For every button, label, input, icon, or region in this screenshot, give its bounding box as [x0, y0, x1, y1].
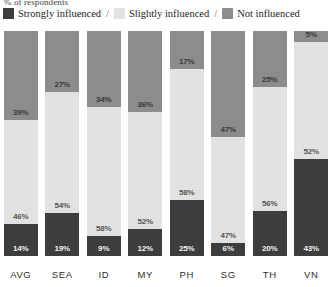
bar-segment-slightly-sea[interactable]: 54%: [45, 92, 79, 214]
bar-value-label: 12%: [137, 244, 153, 256]
bar-column-sea[interactable]: 27%54%19%: [45, 31, 79, 256]
bar-segment-not-sg[interactable]: 47%: [211, 31, 245, 137]
x-axis-tick-avg: AVG: [4, 258, 38, 280]
bar-column-id[interactable]: 34%58%9%: [87, 31, 121, 256]
bar-segment-strongly-sea[interactable]: 19%: [45, 213, 79, 256]
legend-label-strongly-influenced: Strongly influenced: [18, 8, 101, 19]
bar-value-label: 39%: [13, 108, 29, 120]
legend-label-slightly-influenced: Slightly influenced: [129, 8, 209, 19]
bar-segment-strongly-my[interactable]: 12%: [128, 229, 162, 256]
bar-value-label: 5%: [306, 31, 317, 42]
bar-segment-not-sea[interactable]: 27%: [45, 31, 79, 92]
bar-value-label: 17%: [179, 57, 195, 69]
bar-segment-strongly-th[interactable]: 20%: [253, 211, 287, 256]
bar-segment-not-ph[interactable]: 17%: [170, 31, 204, 69]
x-axis-tick-ph: PH: [170, 258, 204, 280]
bar-segment-not-my[interactable]: 36%: [128, 31, 162, 112]
bar-value-label: 43%: [303, 244, 319, 256]
bar-value-label: 34%: [96, 95, 112, 107]
legend-item-slightly-influenced[interactable]: Slightly influenced: [114, 8, 209, 19]
bar-column-ph[interactable]: 17%58%25%: [170, 31, 204, 256]
x-axis-tick-sg: SG: [211, 258, 245, 280]
bar-value-label: 47%: [220, 125, 236, 137]
bar-segment-not-th[interactable]: 25%: [253, 31, 287, 87]
bar-value-label: 9%: [98, 244, 109, 256]
bar-value-label: 6%: [223, 244, 234, 256]
bar-column-th[interactable]: 25%56%20%: [253, 31, 287, 256]
chart-legend: Strongly influenced / Slightly influence…: [3, 8, 300, 19]
legend-swatch-slightly-influenced: [114, 8, 125, 19]
bar-column-avg[interactable]: 39%46%14%: [4, 31, 38, 256]
legend-swatch-not-influenced: [222, 8, 233, 19]
bar-value-label: 52%: [303, 147, 319, 159]
bar-value-label: 56%: [262, 199, 278, 211]
bar-value-label: 36%: [137, 100, 153, 112]
x-axis-tick-th: TH: [253, 258, 287, 280]
x-axis-tick-my: MY: [128, 258, 162, 280]
bar-column-vn[interactable]: 5%52%43%: [294, 31, 328, 256]
bar-value-label: 20%: [262, 244, 278, 256]
bar-value-label: 52%: [137, 217, 153, 229]
bar-value-label: 25%: [179, 244, 195, 256]
legend-swatch-strongly-influenced: [3, 8, 14, 19]
bar-column-my[interactable]: 36%52%12%: [128, 31, 162, 256]
legend-label-not-influenced: Not influenced: [237, 8, 300, 19]
bar-value-label: 47%: [220, 231, 236, 243]
legend-item-not-influenced[interactable]: Not influenced: [222, 8, 300, 19]
bar-value-label: 58%: [179, 188, 195, 200]
bar-segment-slightly-my[interactable]: 52%: [128, 112, 162, 229]
bar-value-label: 25%: [262, 75, 278, 87]
x-axis-tick-sea: SEA: [45, 258, 79, 280]
bar-value-label: 14%: [13, 244, 29, 256]
chart-subtitle: % of respondents: [4, 0, 68, 7]
bar-segment-slightly-ph[interactable]: 58%: [170, 69, 204, 200]
bar-segment-strongly-vn[interactable]: 43%: [294, 159, 328, 256]
stacked-bar-plot-area: 39%46%14%27%54%19%34%58%9%36%52%12%17%58…: [0, 31, 332, 256]
legend-item-strongly-influenced[interactable]: Strongly influenced: [3, 8, 101, 19]
bar-segment-not-avg[interactable]: 39%: [4, 31, 38, 120]
bar-segment-not-vn[interactable]: 5%: [294, 31, 328, 42]
x-axis-tick-id: ID: [87, 258, 121, 280]
bar-segment-slightly-vn[interactable]: 52%: [294, 42, 328, 159]
bar-segment-slightly-sg[interactable]: 47%: [211, 137, 245, 243]
bar-segment-strongly-sg[interactable]: 6%: [211, 243, 245, 257]
x-axis-labels: AVGSEAIDMYPHSGTHVN: [0, 258, 332, 282]
bar-segment-slightly-avg[interactable]: 46%: [4, 120, 38, 225]
bar-value-label: 19%: [54, 244, 70, 256]
bar-segment-slightly-th[interactable]: 56%: [253, 87, 287, 212]
bar-segment-strongly-ph[interactable]: 25%: [170, 200, 204, 256]
bar-segment-strongly-avg[interactable]: 14%: [4, 224, 38, 256]
bar-value-label: 54%: [54, 201, 70, 213]
bar-segment-not-id[interactable]: 34%: [87, 31, 121, 107]
bar-value-label: 58%: [96, 224, 112, 236]
x-axis-tick-vn: VN: [294, 258, 328, 280]
legend-separator-1: /: [101, 8, 114, 19]
bar-segment-slightly-id[interactable]: 58%: [87, 107, 121, 236]
legend-separator-2: /: [209, 8, 222, 19]
bar-column-sg[interactable]: 47%47%6%: [211, 31, 245, 256]
bar-value-label: 46%: [13, 212, 29, 224]
bar-value-label: 27%: [54, 80, 70, 92]
bar-segment-strongly-id[interactable]: 9%: [87, 236, 121, 256]
